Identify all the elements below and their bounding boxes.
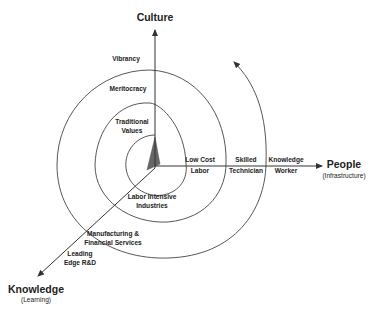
stage-traditional-values-line2: Values: [122, 127, 143, 134]
stage-skilled-technician-line2: Technician: [229, 167, 263, 174]
spiral-diagram: Culture People (Infrastructure) Knowledg…: [0, 0, 387, 316]
stage-manufacturing-line1: Manufacturing &: [87, 230, 139, 238]
knowledge-axis: [38, 168, 155, 276]
people-axis-label: People: [327, 158, 362, 170]
center-wedge: [147, 137, 160, 170]
stage-knowledge-worker-line2: Worker: [275, 167, 298, 174]
stage-leading-edge-line1: Leading: [67, 250, 92, 258]
stage-low-cost-labor-line1: Low Cost: [185, 156, 215, 163]
stage-vibrancy: Vibrancy: [112, 55, 140, 63]
stage-traditional-values-line1: Traditional: [115, 118, 149, 125]
stage-meritocracy: Meritocracy: [109, 85, 146, 93]
stage-labor-intensive-line1: Labor Intensive: [128, 193, 177, 200]
people-axis-sublabel: (Infrastructure): [322, 172, 365, 180]
stage-manufacturing-line2: Financial Services: [84, 239, 142, 246]
knowledge-axis-sublabel: (Learning): [21, 296, 51, 304]
stage-low-cost-labor-line2: Labor: [191, 167, 210, 174]
axes: [38, 30, 322, 276]
stage-skilled-technician-line1: Skilled: [235, 156, 256, 163]
culture-axis-label: Culture: [137, 11, 174, 23]
stage-labor-intensive-line2: Industries: [136, 202, 168, 209]
stage-leading-edge-line2: Edge R&D: [64, 259, 96, 267]
knowledge-axis-label: Knowledge: [8, 283, 64, 295]
stage-knowledge-worker-line1: Knowledge: [268, 156, 304, 164]
